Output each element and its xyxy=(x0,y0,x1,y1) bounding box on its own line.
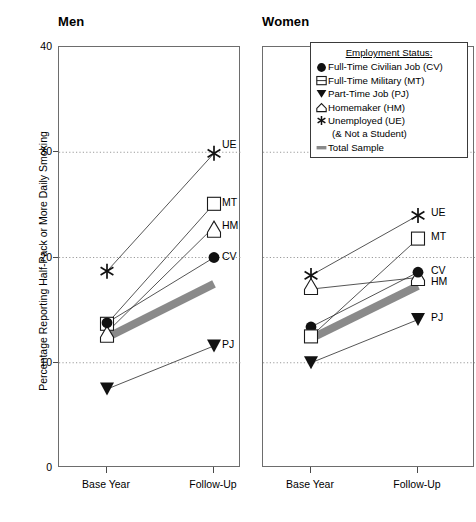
panel-title-men: Men xyxy=(58,14,84,29)
marker-pj-followup xyxy=(207,339,221,352)
marker-ue-followup xyxy=(412,208,425,223)
legend-label-hm: Homemaker (HM) xyxy=(328,101,405,114)
marker-cv-base xyxy=(102,317,113,328)
legend-item-hm: Homemaker (HM) xyxy=(315,101,463,114)
marker-pj-followup xyxy=(411,313,425,326)
marker-cv-followup xyxy=(413,267,424,278)
series-line-ue xyxy=(107,153,214,271)
panel-title-women: Women xyxy=(262,14,309,29)
men-plot-area xyxy=(59,47,239,466)
marker-cv-followup xyxy=(209,252,220,263)
series-line-total-sample xyxy=(107,284,214,338)
marker-mt-followup xyxy=(412,232,425,245)
x-tickmark-men-base xyxy=(106,467,107,473)
y-tick-0: 0 xyxy=(26,462,52,472)
legend-item-mt: Full-Time Military (MT) xyxy=(315,74,463,87)
legend-label-cv: Full-Time Civilian Job (CV) xyxy=(328,60,443,73)
series-line-total-sample xyxy=(311,286,418,339)
series-line-hm xyxy=(107,227,214,332)
y-axis-ticks: 40 30 20 10 0 xyxy=(22,0,52,522)
filled-triangle-down-icon xyxy=(315,88,328,99)
marker-pj-base xyxy=(304,356,318,369)
legend-label-ue-sub: (& Not a Student) xyxy=(332,127,407,140)
legend-label-pj: Part-Time Job (PJ) xyxy=(328,87,409,100)
x-tick-women-followup: Follow-Up xyxy=(393,478,440,490)
marker-label-women-pj: PJ xyxy=(431,312,443,323)
x-tick-men-followup: Follow-Up xyxy=(189,478,236,490)
marker-mt-followup xyxy=(208,197,221,210)
marker-label-men-mt: MT xyxy=(222,197,237,208)
series-line-ue xyxy=(311,215,418,275)
marker-hm-base xyxy=(305,279,318,295)
marker-pj-base xyxy=(100,383,114,396)
plot-panel-men xyxy=(58,46,240,467)
filled-circle-icon xyxy=(315,62,328,73)
star-icon xyxy=(315,115,328,126)
x-tickmark-men-followup xyxy=(213,467,214,473)
y-tick-10: 10 xyxy=(26,357,52,367)
marker-label-women-hm: HM xyxy=(431,276,447,287)
x-tick-women-base: Base Year xyxy=(286,478,334,490)
x-tickmark-women-followup xyxy=(417,467,418,473)
marker-label-men-pj: PJ xyxy=(222,339,234,350)
y-tick-40: 40 xyxy=(26,41,52,51)
thick-gray-band-icon xyxy=(315,142,328,153)
chart-figure: Men Women Percentage Reporting Half-Pack… xyxy=(0,0,476,522)
marker-label-women-mt: MT xyxy=(431,231,446,242)
open-square-icon xyxy=(315,75,328,86)
marker-label-men-ue: UE xyxy=(222,139,237,150)
x-tickmark-women-base xyxy=(310,467,311,473)
marker-mt-base xyxy=(305,330,318,343)
marker-label-women-ue: UE xyxy=(431,207,446,218)
series-line-cv xyxy=(311,272,418,327)
legend-item-ue: Unemployed (UE) xyxy=(315,114,463,127)
series-line-mt xyxy=(107,204,214,324)
y-tick-20: 20 xyxy=(26,252,52,262)
legend-item-cv: Full-Time Civilian Job (CV) xyxy=(315,60,463,73)
legend-item-total-sample: Total Sample xyxy=(315,141,463,154)
legend-item-ue-sub: (& Not a Student) xyxy=(315,127,463,140)
marker-label-men-cv: CV xyxy=(222,251,237,262)
men-plot-svg xyxy=(59,47,241,468)
marker-hm-followup xyxy=(208,221,221,237)
legend: Employment Status: Full-Time Civilian Jo… xyxy=(310,42,468,158)
legend-label-total-sample: Total Sample xyxy=(328,141,384,154)
legend-label-ue: Unemployed (UE) xyxy=(328,114,405,127)
legend-item-pj: Part-Time Job (PJ) xyxy=(315,87,463,100)
legend-title: Employment Status: xyxy=(315,46,463,59)
series-line-pj xyxy=(107,346,214,389)
legend-label-mt: Full-Time Military (MT) xyxy=(328,74,425,87)
open-pentagon-house-icon xyxy=(315,102,328,113)
series-line-pj xyxy=(311,320,418,363)
y-tick-30: 30 xyxy=(26,146,52,156)
marker-label-men-hm: HM xyxy=(222,220,238,231)
x-tick-men-base: Base Year xyxy=(82,478,130,490)
